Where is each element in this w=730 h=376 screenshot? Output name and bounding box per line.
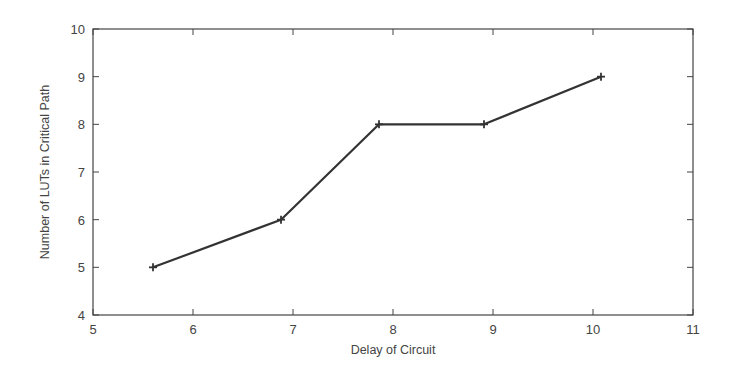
- x-tick-label: 7: [289, 322, 296, 337]
- plot-frame: [93, 29, 693, 315]
- x-tick-label: 5: [89, 322, 96, 337]
- data-series: [149, 73, 605, 272]
- y-tick-label: 5: [78, 260, 85, 275]
- y-tick-label: 10: [71, 22, 85, 37]
- x-axis-ticks: 567891011: [89, 29, 699, 337]
- series-line: [153, 77, 601, 268]
- x-tick-label: 8: [389, 322, 396, 337]
- y-tick-label: 9: [78, 70, 85, 85]
- y-tick-label: 4: [78, 308, 85, 323]
- plus-marker-icon: [480, 120, 488, 128]
- line-chart: 567891011 45678910 Delay of Circuit Numb…: [0, 0, 730, 376]
- y-tick-label: 8: [78, 117, 85, 132]
- y-axis-label: Number of LUTs in Critical Path: [38, 85, 52, 259]
- plus-marker-icon: [149, 263, 157, 271]
- x-axis-label: Delay of Circuit: [351, 343, 436, 357]
- x-tick-label: 10: [586, 322, 600, 337]
- plus-marker-icon: [597, 73, 605, 81]
- y-tick-label: 6: [78, 213, 85, 228]
- x-tick-label: 9: [489, 322, 496, 337]
- x-tick-label: 6: [189, 322, 196, 337]
- y-axis-ticks: 45678910: [71, 22, 693, 323]
- y-tick-label: 7: [78, 165, 85, 180]
- x-tick-label: 11: [686, 322, 700, 337]
